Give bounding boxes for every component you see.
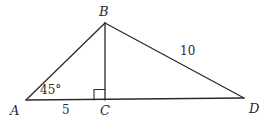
vertex-label-b: B [99,5,109,18]
angle-a-label: 45° [40,84,61,96]
length-ac-label: 5 [62,104,70,116]
right-angle-marker-icon [94,90,105,101]
length-bd-label: 10 [180,45,195,57]
vertex-label-d: D [249,102,259,115]
geometry-diagram: B A C D 45° 5 10 [0,0,269,121]
segment-bd [105,23,244,98]
segment-ad [26,98,244,100]
segment-ab [26,23,105,100]
vertex-label-c: C [100,104,110,117]
triangle-figure [0,0,269,121]
vertex-label-a: A [10,104,19,117]
